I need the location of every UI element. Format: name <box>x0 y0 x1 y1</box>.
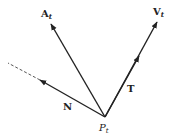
label-n: N <box>63 101 72 112</box>
label-origin: Pt <box>98 122 109 135</box>
n-dashed-extension <box>8 63 40 80</box>
label-a: At <box>40 8 53 21</box>
label-v: Vt <box>152 6 165 19</box>
label-t: T <box>127 83 135 94</box>
vector-n <box>8 63 105 117</box>
vector-diagram: At Vt N T Pt <box>0 0 172 136</box>
vector-a <box>51 24 105 117</box>
